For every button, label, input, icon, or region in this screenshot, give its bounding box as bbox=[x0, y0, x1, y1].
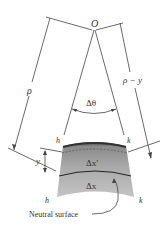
rho-bottom-extension bbox=[8, 148, 56, 171]
rho-minus-y-extension bbox=[128, 141, 160, 152]
y-top-extension bbox=[40, 148, 62, 152]
neutral-surface-label: Neutral surface bbox=[29, 210, 79, 219]
y-arrow-top bbox=[43, 150, 47, 155]
rho-minus-y-dimension-upper bbox=[120, 23, 130, 72]
rho-minus-y-arrow-bottom bbox=[148, 152, 152, 159]
y-arrow-bottom bbox=[43, 168, 47, 173]
delta-x-label: Δx bbox=[86, 181, 97, 191]
rho-dimension-line-lower bbox=[14, 96, 29, 150]
origin-label: O bbox=[91, 18, 98, 29]
y-label: y bbox=[35, 156, 40, 166]
rho-minus-y-label: ρ − y bbox=[122, 75, 142, 85]
beam-bending-diagram: O ρ ρ − y Δθ h k y Δx′ Δx h k Neutral su… bbox=[0, 0, 165, 226]
rho-dimension-line-upper bbox=[32, 18, 50, 82]
delta-x-prime-label: Δx′ bbox=[86, 158, 98, 168]
h-bottom-label: h bbox=[45, 196, 49, 205]
delta-theta-arrow-left bbox=[72, 109, 77, 112]
delta-theta-arc bbox=[72, 109, 116, 114]
left-radial-line bbox=[64, 30, 94, 135]
k-top-label: k bbox=[127, 136, 131, 145]
rho-label: ρ bbox=[26, 85, 32, 96]
delta-theta-label: Δθ bbox=[86, 98, 96, 108]
left-top-extension-line bbox=[46, 17, 92, 30]
delta-theta-arrow-right bbox=[111, 109, 116, 112]
k-bottom-label: k bbox=[139, 196, 143, 205]
rho-arrow-bottom bbox=[12, 144, 16, 150]
rho-minus-y-dimension-lower bbox=[135, 88, 151, 158]
h-top-label: h bbox=[56, 136, 60, 145]
right-radial-line bbox=[95, 30, 124, 135]
right-top-extension-line bbox=[96, 23, 123, 30]
